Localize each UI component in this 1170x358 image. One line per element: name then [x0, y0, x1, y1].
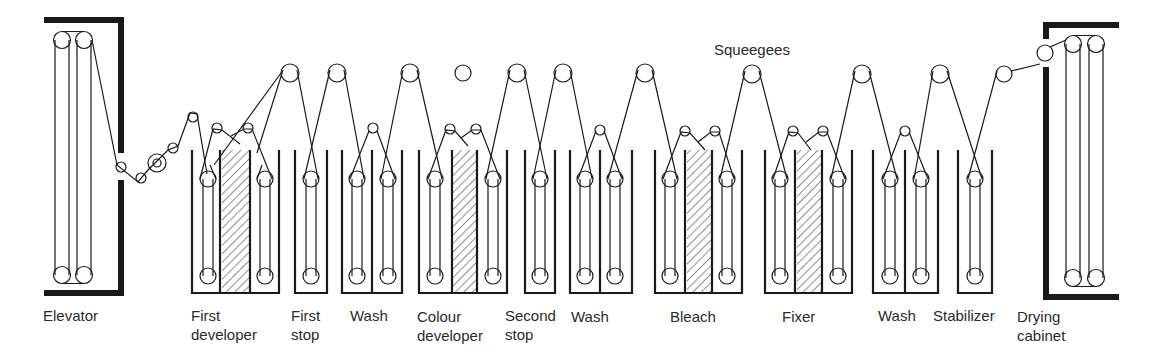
label-colour-developer: Colour developer	[417, 307, 483, 345]
label-squeegees: Squeegees	[714, 40, 790, 59]
elevator-film-path	[55, 32, 91, 284]
tank-wash-1	[342, 123, 402, 293]
label-line: stop	[291, 325, 320, 344]
label-fixer: Fixer	[782, 307, 815, 326]
elevator-roller-top-2	[76, 32, 93, 49]
label-line: cabinet	[1017, 326, 1065, 345]
tank-second-stop	[525, 150, 555, 293]
label-line: First	[291, 306, 320, 325]
film-processor-diagram	[0, 0, 1170, 358]
feed-roller-3	[148, 154, 166, 172]
label-elevator: Elevator	[43, 306, 98, 325]
hatched-block	[687, 150, 712, 293]
hatched-block	[222, 150, 250, 293]
elevator	[44, 20, 121, 293]
elevator-roller-bottom-1	[54, 267, 71, 284]
label-first-stop: First stop	[291, 306, 320, 344]
label-first-developer: First developer	[191, 306, 257, 344]
label-line: Second	[505, 306, 556, 325]
label-wash-2: Wash	[571, 307, 609, 326]
elevator-roller-top-1	[54, 32, 71, 49]
label-line: stop	[505, 325, 556, 344]
drying-cabinet-housing	[1046, 25, 1119, 297]
tank-wash-2	[570, 125, 632, 293]
label-line: developer	[417, 326, 483, 345]
label-line: Colour	[417, 307, 483, 326]
elevator-roller-bottom-2	[76, 267, 93, 284]
label-line: developer	[191, 325, 257, 344]
label-line: First	[191, 306, 257, 325]
tank-first-stop	[295, 150, 327, 293]
tank-stabilizer	[958, 150, 992, 293]
tank-fixer	[765, 126, 852, 293]
tank-bleach	[655, 126, 742, 293]
drying-cabinet	[1037, 25, 1119, 297]
tank-wash-3	[873, 126, 938, 293]
tank-first-developer	[192, 123, 279, 293]
label-stabilizer: Stabilizer	[933, 306, 995, 325]
tank-colour-developer	[419, 124, 507, 293]
drying-entry-roller	[1037, 45, 1053, 61]
label-line: Drying	[1017, 307, 1065, 326]
film-path	[214, 64, 1040, 179]
squeegee-rollers	[281, 64, 1012, 83]
label-second-stop: Second stop	[505, 306, 556, 344]
hatched-block	[797, 150, 822, 293]
feed-path	[92, 40, 207, 183]
label-wash-3: Wash	[878, 306, 916, 325]
label-wash-1: Wash	[350, 306, 388, 325]
label-drying-cabinet: Drying cabinet	[1017, 307, 1065, 345]
hatched-block	[452, 150, 477, 293]
label-bleach: Bleach	[670, 307, 716, 326]
